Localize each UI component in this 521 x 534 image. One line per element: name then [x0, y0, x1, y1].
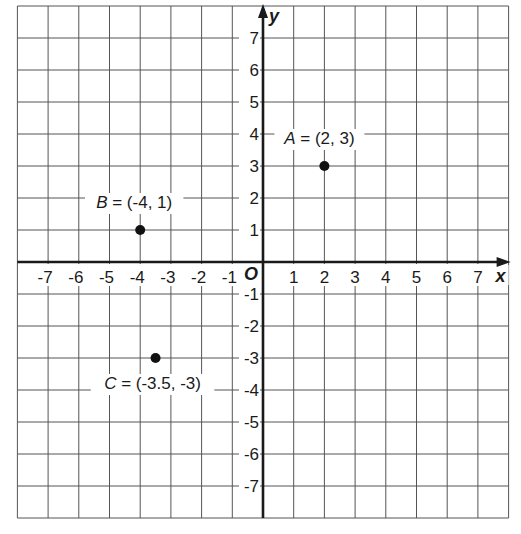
y-tick-label: 2	[250, 189, 259, 208]
x-tick-label: -1	[222, 268, 237, 287]
x-tick-label: -7	[38, 268, 53, 287]
y-tick-label: -3	[244, 349, 259, 368]
y-tick-label: 5	[250, 93, 259, 112]
y-tick-label: 7	[250, 29, 259, 48]
point-label-c: C = (-3.5, -3)	[104, 374, 201, 393]
x-tick-label: 4	[381, 268, 390, 287]
x-tick-label: -3	[160, 268, 175, 287]
y-axis-label: y	[268, 6, 280, 26]
y-tick-label: -6	[244, 445, 259, 464]
x-tick-label: -4	[130, 268, 145, 287]
point-c	[151, 353, 161, 363]
x-tick-label: 5	[412, 268, 421, 287]
origin-label: O	[244, 264, 258, 284]
point-label-b: B = (-4, 1)	[96, 193, 172, 212]
point-b	[135, 225, 145, 235]
y-tick-label: 1	[250, 221, 259, 240]
x-tick-label: 6	[442, 268, 451, 287]
y-tick-label: 3	[250, 157, 259, 176]
x-axis-label: x	[495, 266, 507, 286]
y-tick-label: 4	[250, 125, 259, 144]
point-label-a: A = (2, 3)	[283, 129, 354, 148]
x-tick-label: 1	[289, 268, 298, 287]
y-tick-label: -2	[244, 317, 259, 336]
y-tick-label: 6	[250, 61, 259, 80]
point-a	[319, 161, 329, 171]
x-tick-label: 7	[473, 268, 482, 287]
x-tick-label: 2	[320, 268, 329, 287]
axes	[17, 4, 510, 518]
x-tick-label: -6	[68, 268, 83, 287]
y-tick-label: -7	[244, 477, 259, 496]
y-tick-label: -5	[244, 413, 259, 432]
y-tick-label: -4	[244, 381, 259, 400]
y-tick-label: -1	[244, 285, 259, 304]
coordinate-plane: -7-6-5-4-3-2-112345677654321-1-2-3-4-5-6…	[0, 0, 521, 534]
x-tick-label: -2	[191, 268, 206, 287]
x-tick-label: 3	[350, 268, 359, 287]
x-tick-label: -5	[99, 268, 114, 287]
